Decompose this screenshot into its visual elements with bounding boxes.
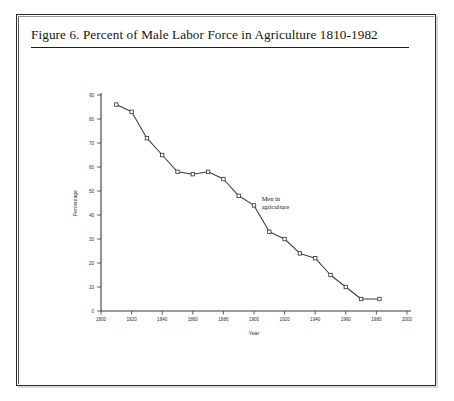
data-point-marker <box>268 230 271 233</box>
series-line-men-in-agriculture <box>116 105 379 299</box>
x-tick-label: 1860 <box>188 317 199 322</box>
x-tick-label: 1900 <box>249 317 260 322</box>
y-tick-label: 70 <box>89 141 95 146</box>
data-point-marker <box>344 285 347 288</box>
y-tick-label: 80 <box>89 117 95 122</box>
y-tick-label: 40 <box>89 213 95 218</box>
data-point-marker <box>283 237 286 240</box>
x-tick-label: 1880 <box>218 317 229 322</box>
data-point-marker <box>176 170 179 173</box>
y-tick-label: 10 <box>89 285 95 290</box>
x-axis-ticks: 1800182018401860188019001920194019601980… <box>96 311 413 322</box>
x-tick-label: 1940 <box>310 317 321 322</box>
data-point-marker <box>314 257 317 260</box>
y-tick-label: 90 <box>89 93 95 98</box>
data-point-marker <box>252 204 255 207</box>
y-tick-label: 0 <box>91 309 94 314</box>
annotation-line-1: Men in <box>262 195 281 202</box>
data-point-marker <box>130 110 133 113</box>
data-point-marker <box>298 252 301 255</box>
data-point-marker <box>191 173 194 176</box>
x-tick-label: 1840 <box>157 317 168 322</box>
axis-lines <box>101 93 411 311</box>
chart-plot-area: 0102030405060708090 18001820184018601880… <box>17 15 437 387</box>
x-axis-title: Year <box>249 330 260 336</box>
data-point-marker <box>237 194 240 197</box>
data-point-marker <box>161 153 164 156</box>
x-tick-label: 1920 <box>279 317 290 322</box>
y-tick-label: 20 <box>89 261 95 266</box>
x-tick-label: 2000 <box>402 317 413 322</box>
x-tick-label: 1820 <box>126 317 137 322</box>
data-point-marker <box>115 103 118 106</box>
y-tick-label: 50 <box>89 189 95 194</box>
figure-frame: Figure 6. Percent of Male Labor Force in… <box>16 14 436 386</box>
y-tick-label: 60 <box>89 165 95 170</box>
y-axis-ticks: 0102030405060708090 <box>89 93 101 314</box>
y-tick-label: 30 <box>89 237 95 242</box>
chart-annotation: Men inagriculture <box>262 195 290 210</box>
x-tick-label: 1960 <box>341 317 352 322</box>
data-point-marker <box>145 137 148 140</box>
data-point-marker <box>222 177 225 180</box>
data-point-marker <box>329 273 332 276</box>
annotation-line-2: agriculture <box>262 203 290 210</box>
x-tick-label: 1980 <box>371 317 382 322</box>
y-axis-title: Percentage <box>72 190 78 216</box>
x-tick-label: 1800 <box>96 317 107 322</box>
data-point-marker <box>378 297 381 300</box>
data-point-marker <box>206 170 209 173</box>
line-chart: 0102030405060708090 18001820184018601880… <box>17 15 437 387</box>
data-point-marker <box>359 297 362 300</box>
data-series <box>116 105 379 299</box>
